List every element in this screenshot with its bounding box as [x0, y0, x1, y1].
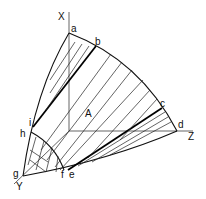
point-label-c: c — [160, 98, 165, 109]
axis-label-x: X — [58, 11, 65, 22]
region-label-a: A — [85, 108, 92, 119]
point-label-f: f — [61, 169, 64, 180]
arc-g-a — [23, 33, 69, 176]
point-label-h: h — [20, 128, 26, 139]
outer-boundary — [23, 33, 177, 176]
ternary-octant-diagram: X Z Y A a b c d e f g h i — [0, 0, 206, 199]
axes — [14, 12, 193, 184]
point-label-a: a — [71, 23, 77, 34]
point-label-d: d — [178, 119, 184, 130]
axis-label-y: Y — [16, 181, 23, 192]
cross-hatching — [28, 137, 58, 172]
point-label-i: i — [29, 117, 31, 128]
bold-edges — [31, 46, 162, 170]
point-label-e: e — [69, 169, 75, 180]
hatching-upper-band — [46, 42, 89, 110]
edge-c-e — [68, 108, 162, 170]
point-label-b: b — [95, 36, 101, 47]
point-label-g: g — [13, 168, 19, 179]
axis-label-z: Z — [188, 131, 194, 142]
